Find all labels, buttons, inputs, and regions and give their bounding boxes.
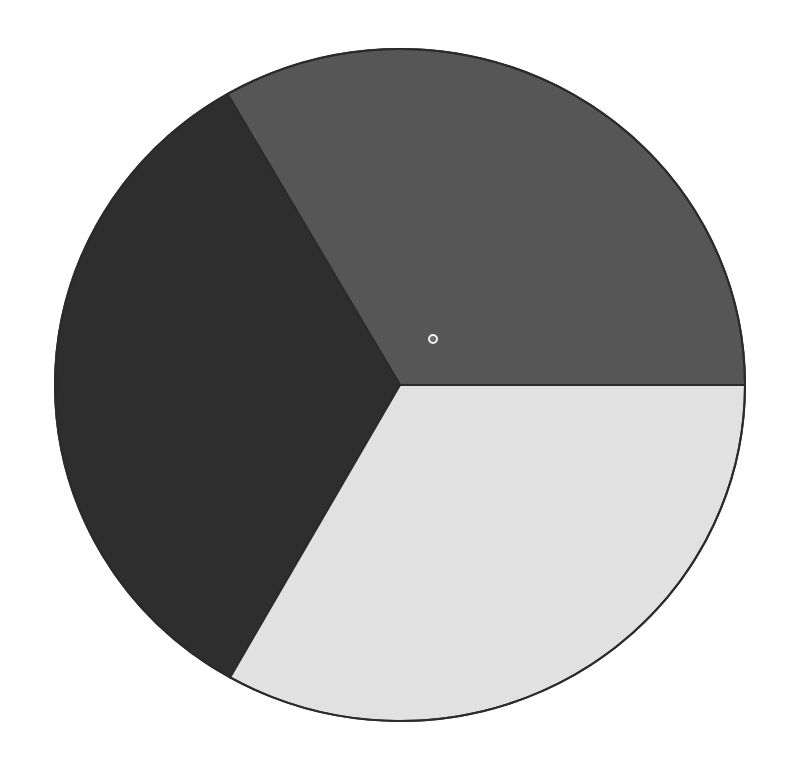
pie-markers-group: [429, 335, 437, 343]
data-point-marker[interactable]: [429, 335, 437, 343]
pie-chart-canvas: [0, 0, 788, 759]
pie-chart-svg: [0, 0, 788, 759]
pie-slices-group: [55, 49, 745, 721]
